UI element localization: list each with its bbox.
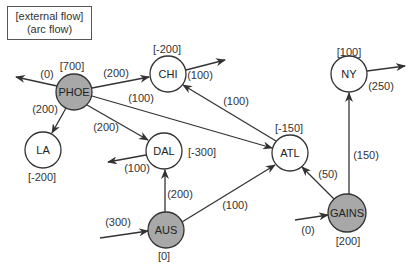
arc-aus-atl-flow: (100) [222, 199, 248, 211]
ny-external-flow: [100] [337, 46, 361, 58]
arc-ny-external-flow: (250) [368, 80, 394, 92]
arc-aus-dal-flow: (200) [167, 188, 193, 200]
arc-phoe-external-flow: (0) [40, 68, 53, 80]
arc-phoe-atl-flow: (100) [128, 92, 154, 104]
node-gains-label: GAINS [330, 207, 364, 219]
node-ny-label: NY [341, 68, 356, 80]
arc-gains-ny-flow: (150) [353, 149, 379, 161]
arc-phoe-dal-flow: (200) [93, 121, 119, 133]
chi-external-flow: [-200] [153, 43, 181, 55]
arc-aus-atl [182, 165, 275, 222]
arc-external-aus-flow: (300) [105, 216, 131, 228]
atl-external-flow: [-150] [275, 122, 303, 134]
arc-external-aus [100, 231, 148, 238]
arc-gains-atl-flow: (50) [318, 168, 338, 180]
dal-external-flow: [-300] [188, 146, 216, 158]
aus-external-flow: [0] [158, 250, 170, 262]
node-la-label: LA [36, 144, 49, 156]
arc-atl-chi-flow: (100) [223, 95, 249, 107]
gains-external-flow: [200] [336, 235, 360, 247]
network-diagram [0, 0, 417, 269]
arc-ny-external [367, 66, 405, 71]
arc-external-gains [295, 215, 328, 220]
phoe-external-flow: [700] [60, 60, 84, 72]
arc-dal-external [108, 155, 146, 162]
node-aus-label: AUS [155, 224, 178, 236]
arc-phoe-chi-flow: (200) [103, 67, 129, 79]
arc-phoe-la-flow: (200) [32, 103, 58, 115]
arc-dal-external-flow: (100) [124, 162, 150, 174]
node-phoe-label: PHOE [58, 86, 89, 98]
node-atl-label: ATL [280, 147, 299, 159]
node-chi-label: CHI [159, 68, 178, 80]
arc-atl-chi [183, 85, 276, 141]
arc-external-gains-flow: (0) [301, 224, 314, 236]
node-dal-label: DAL [153, 145, 174, 157]
la-external-flow: [-200] [28, 171, 56, 183]
arc-chi-external-flow: (100) [187, 69, 213, 81]
